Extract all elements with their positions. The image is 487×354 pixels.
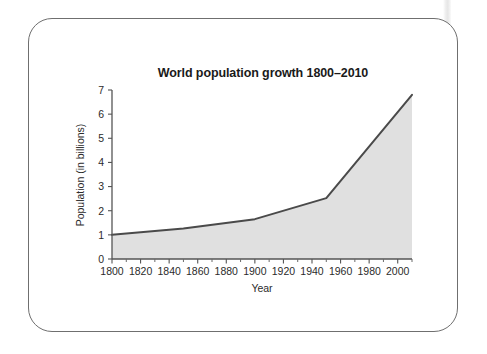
x-tick-label: 1900 <box>243 265 267 277</box>
y-tick-label: 0 <box>98 253 104 265</box>
population-area-chart: World population growth 1800–2010 012345… <box>0 0 487 354</box>
y-tick-label: 2 <box>98 205 104 217</box>
x-tick-label: 1980 <box>357 265 381 277</box>
x-tick-label: 1800 <box>100 265 124 277</box>
y-tick-label: 5 <box>98 132 104 144</box>
y-tick-label: 4 <box>98 156 104 168</box>
screenshot-stage: World population growth 1800–2010 012345… <box>0 0 487 354</box>
x-tick-label: 1840 <box>157 265 181 277</box>
x-tick-label: 1880 <box>215 265 239 277</box>
plot-area: 01234567 1800182018401860188019001920194… <box>98 84 412 277</box>
y-axis-title: Population (in billions) <box>74 124 86 227</box>
y-tick-label: 3 <box>98 180 104 192</box>
chart-title: World population growth 1800–2010 <box>158 66 369 80</box>
population-area-fill <box>112 95 412 259</box>
chart-svg: World population growth 1800–2010 012345… <box>0 0 487 354</box>
x-tick-label: 1820 <box>129 265 153 277</box>
x-tick-label: 1860 <box>186 265 210 277</box>
x-tick-label: 1960 <box>329 265 353 277</box>
x-tick-label: 2000 <box>386 265 410 277</box>
y-axis-ticks: 01234567 <box>98 84 112 265</box>
y-tick-label: 7 <box>98 84 104 96</box>
x-axis-title: Year <box>251 282 273 294</box>
y-tick-label: 1 <box>98 229 104 241</box>
y-tick-label: 6 <box>98 108 104 120</box>
x-tick-label: 1920 <box>272 265 296 277</box>
x-axis-ticks: 1800182018401860188019001920194019601980… <box>100 259 412 277</box>
x-tick-label: 1940 <box>300 265 324 277</box>
